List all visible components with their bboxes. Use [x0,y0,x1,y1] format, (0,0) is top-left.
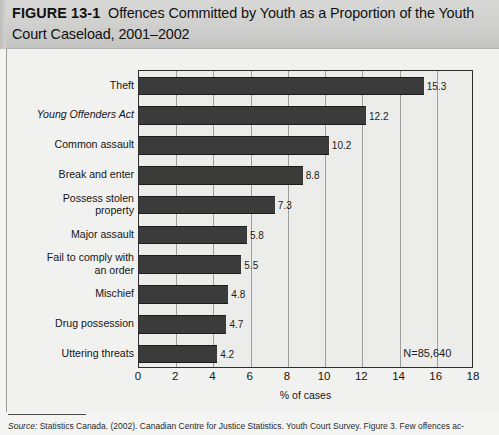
x-tick-label-6: 6 [246,370,252,382]
bar-value-label: 8.8 [303,170,320,181]
bar [139,196,275,214]
bar [139,77,424,95]
bar-row: 5.5 [139,255,472,273]
bar-value-label: 4.8 [228,289,245,300]
x-tick-label-8: 8 [284,370,290,382]
source-divider [8,414,86,415]
bar [139,166,303,184]
figure-number: FIGURE 13-1 [12,5,100,21]
source-label: Source: [8,421,37,431]
bar-value-label: 5.8 [247,229,264,240]
x-tick-label-16: 16 [429,370,442,382]
figure-title-spacer [100,5,108,21]
figure-body: TheftYoung Offenders ActCommon assaultBr… [6,49,499,412]
title-left-stripe [0,0,6,49]
plot-area: 15.312.210.28.87.35.85.54.84.74.2 N=85,6… [138,70,473,368]
x-axis-ticks: 024681012141618 [138,370,473,386]
bar-row: 5.8 [139,226,472,244]
category-label: Possess stolen property [8,192,134,217]
x-tick-label-18: 18 [467,370,480,382]
category-label: Young Offenders Act [8,108,134,121]
bar [139,106,366,124]
bar-row: 15.3 [139,77,472,95]
sample-size-annotation: N=85,640 [403,347,451,359]
bar-row: 7.3 [139,196,472,214]
bar-row: 8.8 [139,166,472,184]
bar-row: 10.2 [139,136,472,154]
bar-value-label: 10.2 [329,140,351,151]
x-tick-label-4: 4 [209,370,215,382]
figure-title-band: FIGURE 13-1 Offences Committed by Youth … [0,0,499,49]
bar-value-label: 15.3 [424,80,446,91]
x-tick-label-10: 10 [318,370,331,382]
category-label: Major assault [8,228,134,241]
bar [139,285,228,303]
source-text: Statistics Canada. (2002). Canadian Cent… [37,421,464,431]
bar-value-label: 4.2 [217,349,234,360]
bar-value-label: 7.3 [275,200,292,211]
x-tick-label-14: 14 [392,370,405,382]
bar-value-label: 4.7 [226,319,243,330]
bar-row: 12.2 [139,106,472,124]
x-tick-label-0: 0 [135,370,141,382]
category-label: Break and enter [8,168,134,181]
bar-value-label: 5.5 [241,259,258,270]
category-label: Drug possession [8,317,134,330]
x-tick-label-12: 12 [355,370,368,382]
category-label-column: TheftYoung Offenders ActCommon assaultBr… [7,70,134,368]
bar [139,136,329,154]
bar-row: 4.7 [139,315,472,333]
category-label: Uttering threats [8,347,134,360]
x-axis-label: % of cases [138,389,473,401]
bar [139,345,217,363]
figure-container: FIGURE 13-1 Offences Committed by Youth … [0,0,499,435]
category-label: Theft [8,79,134,92]
bar [139,315,226,333]
bar-value-label: 12.2 [366,110,388,121]
category-label: Mischief [8,287,134,300]
source-note: Source: Statistics Canada. (2002). Canad… [8,421,496,432]
bar [139,255,241,273]
bar [139,226,247,244]
category-label: Common assault [8,138,134,151]
page-title: FIGURE 13-1 Offences Committed by Youth … [12,3,490,45]
category-label: Fail to comply with an order [8,251,134,276]
x-tick-label-2: 2 [172,370,178,382]
bar-row: 4.8 [139,285,472,303]
